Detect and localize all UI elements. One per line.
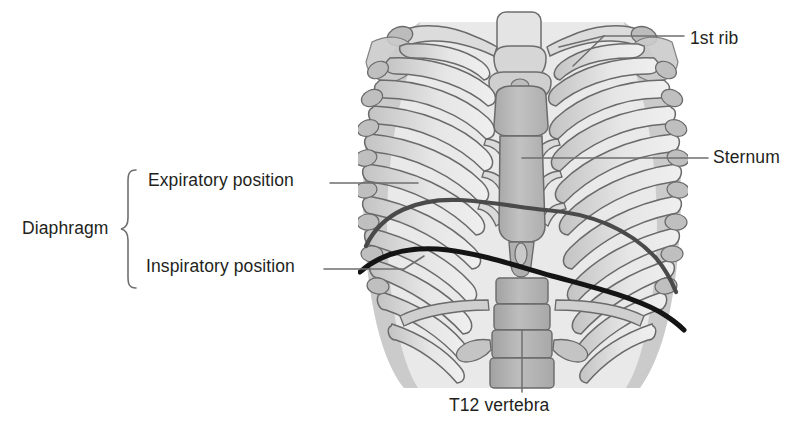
leader-inspiratory (324, 256, 424, 269)
label-inspiratory-position: Inspiratory position (146, 258, 295, 276)
label-sternum: Sternum (713, 149, 780, 167)
annotation-layer (0, 0, 804, 433)
label-t12-vertebra: T12 vertebra (449, 397, 549, 415)
leader-1st-rib (559, 36, 684, 66)
anatomical-figure: 1st rib Sternum Expiratory position Diap… (0, 0, 804, 433)
label-first-rib: 1st rib (690, 30, 738, 48)
diaphragm-brace (121, 170, 136, 288)
label-expiratory-position: Expiratory position (148, 172, 294, 190)
label-diaphragm: Diaphragm (22, 220, 109, 238)
